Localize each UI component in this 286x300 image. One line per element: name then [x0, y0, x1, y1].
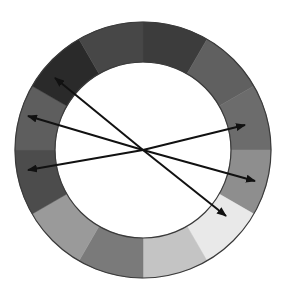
color-wheel — [0, 0, 286, 300]
arrow-lower-right-icon — [143, 150, 226, 216]
color-wheel-diagram — [0, 0, 286, 300]
arrow-upper-left-icon — [55, 78, 143, 150]
